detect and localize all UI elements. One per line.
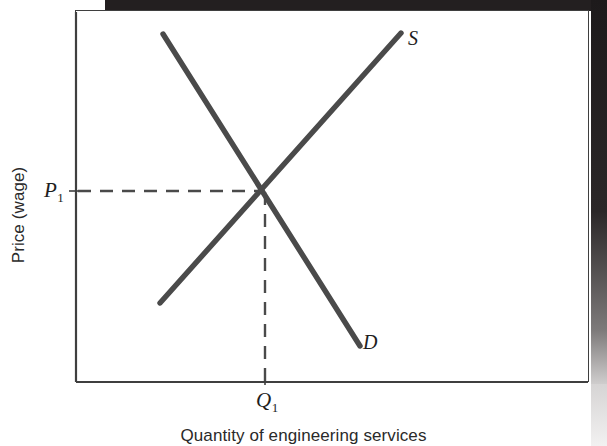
price-subscript: 1 — [57, 190, 64, 205]
quantity-axis-label: Q1 — [256, 388, 278, 413]
price-axis-label: P1 — [44, 178, 63, 203]
figure-page: Price (wage) Quantity of engineering ser… — [0, 0, 607, 446]
x-axis-title: Quantity of engineering services — [0, 426, 607, 446]
supply-demand-plot — [0, 0, 607, 446]
quantity-subscript: 1 — [272, 400, 279, 415]
demand-curve-label: D — [363, 331, 377, 354]
y-axis-title: Price (wage) — [9, 125, 29, 305]
price-letter: P — [44, 178, 57, 202]
quantity-letter: Q — [256, 388, 271, 412]
supply-curve-label: S — [408, 27, 418, 50]
supply-curve — [160, 33, 401, 303]
